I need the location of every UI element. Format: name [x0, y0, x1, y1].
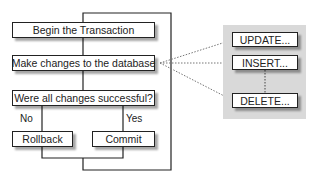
rollback-box: Rollback	[12, 131, 73, 147]
delete-statement-box: DELETE...	[232, 93, 298, 108]
update-statement-box: UPDATE...	[232, 32, 298, 47]
make-changes-box: Make changes to the database	[12, 55, 155, 71]
commit-box: Commit	[92, 131, 155, 147]
begin-transaction-box: Begin the Transaction	[12, 22, 155, 38]
insert-statement-box: INSERT...	[232, 55, 298, 70]
no-label: No	[20, 113, 33, 124]
decision-box: Were all changes successful?	[12, 90, 155, 106]
yes-label: Yes	[126, 113, 142, 124]
